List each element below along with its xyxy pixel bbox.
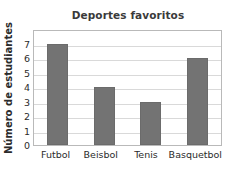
x-axis-tick-label: Beisbol	[78, 149, 123, 160]
x-axis-tick-labels: FutbolBeisbolTenisBasquetbol	[33, 149, 222, 160]
chart-title: Deportes favoritos	[30, 9, 226, 21]
bars-container	[34, 31, 221, 145]
y-axis-title: Número de estudiantes	[3, 22, 14, 154]
bar-slot	[128, 31, 175, 145]
y-axis-title-container: Número de estudiantes	[0, 30, 16, 146]
y-axis-tick-label: 4	[17, 83, 30, 93]
plot-area	[33, 30, 222, 146]
bar	[187, 58, 208, 145]
y-axis-tick-label: 0	[17, 141, 30, 151]
bar-slot	[34, 31, 81, 145]
bar-slot	[81, 31, 128, 145]
y-axis-tick-label: 1	[17, 127, 30, 137]
y-axis-tick-label: 5	[17, 69, 30, 79]
bar-slot	[174, 31, 221, 145]
y-axis-tick-label: 6	[17, 54, 30, 64]
x-axis-tick-label: Basquetbol	[169, 149, 222, 160]
x-axis-tick-label: Tenis	[123, 149, 168, 160]
y-axis-tick-label: 2	[17, 112, 30, 122]
bar	[140, 102, 161, 146]
x-axis-tick-label: Futbol	[33, 149, 78, 160]
y-axis-tick-labels: 76543210	[17, 30, 32, 146]
bar-chart: Deportes favoritos Número de estudiantes…	[0, 0, 240, 171]
y-axis-tick-label: 3	[17, 98, 30, 108]
y-axis-tick-label: 7	[17, 40, 30, 50]
bar	[47, 44, 68, 146]
bar	[94, 87, 115, 145]
